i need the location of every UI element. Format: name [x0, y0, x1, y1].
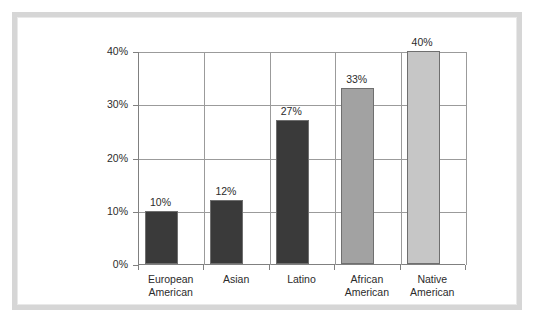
- bar-value-label: 40%: [392, 36, 452, 48]
- x-axis-category-label-line: Native: [389, 273, 475, 286]
- y-axis-tick-label: 0%: [68, 258, 128, 270]
- x-axis-tick-mark: [269, 265, 270, 270]
- x-axis-tick-mark: [334, 265, 335, 270]
- x-axis-tick-mark: [400, 265, 401, 270]
- x-axis-tick-mark: [138, 265, 139, 270]
- bar-value-label: 12%: [196, 185, 256, 197]
- category-separator-line: [270, 52, 271, 265]
- x-axis-tick-mark: [203, 265, 204, 270]
- bar[interactable]: [341, 88, 374, 264]
- y-axis-tick-label: 20%: [68, 152, 128, 164]
- bar[interactable]: [210, 200, 243, 264]
- bar-value-label: 10%: [131, 196, 191, 208]
- x-axis-category-label-line: American: [389, 286, 475, 299]
- x-axis-category-label-line: American: [128, 286, 214, 299]
- bar-value-label: 27%: [261, 105, 321, 117]
- bar[interactable]: [407, 51, 440, 264]
- category-separator-line: [204, 52, 205, 265]
- y-axis-tick-label: 40%: [68, 45, 128, 57]
- bar-chart: 0%10%20%30%40% 10%12%27%33%40% EuropeanA…: [0, 0, 536, 326]
- x-axis-tick-mark: [465, 265, 466, 270]
- category-separator-line: [401, 52, 402, 265]
- page-root: 0%10%20%30%40% 10%12%27%33%40% EuropeanA…: [0, 0, 536, 326]
- category-separator-line: [466, 52, 467, 265]
- bar[interactable]: [145, 211, 178, 264]
- bar[interactable]: [276, 120, 309, 264]
- y-axis-tick-label: 10%: [68, 205, 128, 217]
- x-axis-category-label: NativeAmerican: [389, 273, 475, 298]
- y-axis-tick-label: 30%: [68, 98, 128, 110]
- bar-value-label: 33%: [327, 73, 387, 85]
- plot-area: [138, 52, 465, 265]
